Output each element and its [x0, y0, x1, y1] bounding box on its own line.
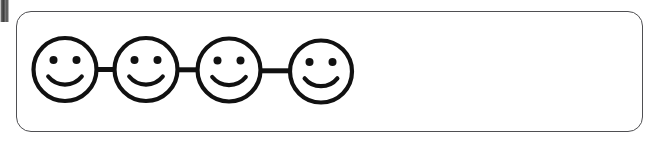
scan-artifact-mark — [0, 0, 9, 22]
screenshot-canvas: linked smiley face chain — [0, 0, 655, 144]
rounded-rectangle-container — [16, 11, 643, 132]
